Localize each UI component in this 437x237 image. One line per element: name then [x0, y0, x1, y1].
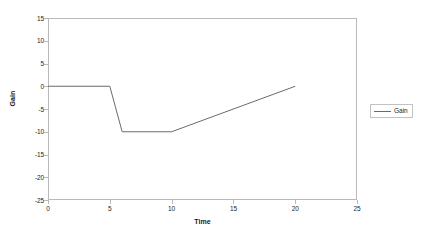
- y-tick-label: 0: [18, 83, 44, 90]
- x-tick-mark: [295, 200, 296, 204]
- y-tick-mark: [44, 177, 48, 178]
- legend-label-gain: Gain: [394, 107, 408, 115]
- x-tick-mark: [172, 200, 173, 204]
- y-tick-mark: [44, 155, 48, 156]
- legend-swatch-gain: [374, 111, 391, 112]
- y-axis-tick-labels: 151050-5-10-15-20-25: [14, 0, 44, 237]
- y-tick-label: -5: [18, 106, 44, 113]
- y-tick-label: -10: [18, 128, 44, 135]
- y-tick-mark: [44, 18, 48, 19]
- x-tick-label: 5: [98, 205, 122, 212]
- y-axis-title: Gain: [9, 74, 16, 124]
- x-tick-label: 0: [36, 205, 60, 212]
- x-tick-label: 10: [160, 205, 184, 212]
- x-tick-mark: [48, 200, 49, 204]
- plot-area: [48, 18, 357, 200]
- y-tick-label: 5: [18, 60, 44, 67]
- y-tick-label: -15: [18, 151, 44, 158]
- x-axis-tick-labels: 0510152025: [0, 205, 437, 215]
- y-tick-label: 15: [18, 15, 44, 22]
- y-tick-mark: [44, 64, 48, 65]
- x-tick-mark: [357, 200, 358, 204]
- x-tick-mark: [110, 200, 111, 204]
- x-tick-label: 20: [283, 205, 307, 212]
- y-tick-mark: [44, 86, 48, 87]
- x-axis-title: Time: [48, 218, 357, 225]
- legend[interactable]: Gain: [370, 104, 413, 118]
- y-tick-mark: [44, 132, 48, 133]
- x-tick-label: 25: [345, 205, 369, 212]
- y-tick-mark: [44, 109, 48, 110]
- y-tick-mark: [44, 41, 48, 42]
- gain-vs-time-chart: 151050-5-10-15-20-25 0510152025 Gain Tim…: [0, 0, 437, 237]
- y-tick-label: -20: [18, 174, 44, 181]
- y-tick-label: -25: [18, 197, 44, 204]
- x-tick-mark: [233, 200, 234, 204]
- x-tick-label: 15: [221, 205, 245, 212]
- y-tick-label: 10: [18, 37, 44, 44]
